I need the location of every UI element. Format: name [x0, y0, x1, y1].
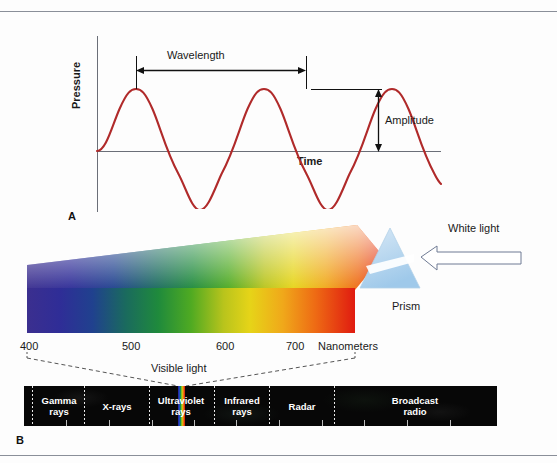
em-segment-x-rays: X-rays [86, 401, 148, 412]
em-divider-6 [334, 386, 335, 426]
em-divider-5 [269, 386, 270, 426]
em-label-line2: radio [403, 406, 426, 417]
em-label-line2: rays [232, 406, 252, 417]
em-tick [236, 420, 237, 426]
figure-container: Pressure Time Wavelength Amplitude A [0, 0, 557, 463]
em-tick [407, 420, 408, 426]
em-label-line2: rays [49, 406, 69, 417]
em-divider-4 [214, 386, 215, 426]
em-tick [279, 420, 280, 426]
em-segment-infrared-rays: Infrared rays [216, 395, 268, 417]
em-divider-1 [32, 386, 33, 426]
em-tick [109, 420, 110, 426]
em-label-line1: Infrared [224, 395, 259, 406]
em-label-line1: Ultraviolet [158, 395, 204, 406]
em-segment-radar: Radar [271, 401, 333, 412]
em-label-line1: X-rays [102, 401, 131, 412]
em-label-line1: Broadcast [392, 395, 438, 406]
em-label-line2: rays [171, 406, 191, 417]
em-tick [364, 420, 365, 426]
em-label-line1: Radar [289, 401, 316, 412]
electromagnetic-spectrum-bar: Gamma rays X-rays Ultraviolet rays Infra… [24, 386, 497, 426]
em-divider-2 [84, 386, 85, 426]
em-tick [194, 420, 195, 426]
panel-b-letter: B [16, 434, 24, 446]
em-tick [66, 420, 67, 426]
em-tick [322, 420, 323, 426]
em-segment-gamma-rays: Gamma rays [34, 395, 84, 417]
em-segment-ultraviolet-rays: Ultraviolet rays [150, 395, 212, 417]
em-segment-broadcast-radio: Broadcast radio [336, 395, 494, 417]
em-tick [152, 420, 153, 426]
em-label-line1: Gamma [42, 395, 77, 406]
em-tick [450, 420, 451, 426]
